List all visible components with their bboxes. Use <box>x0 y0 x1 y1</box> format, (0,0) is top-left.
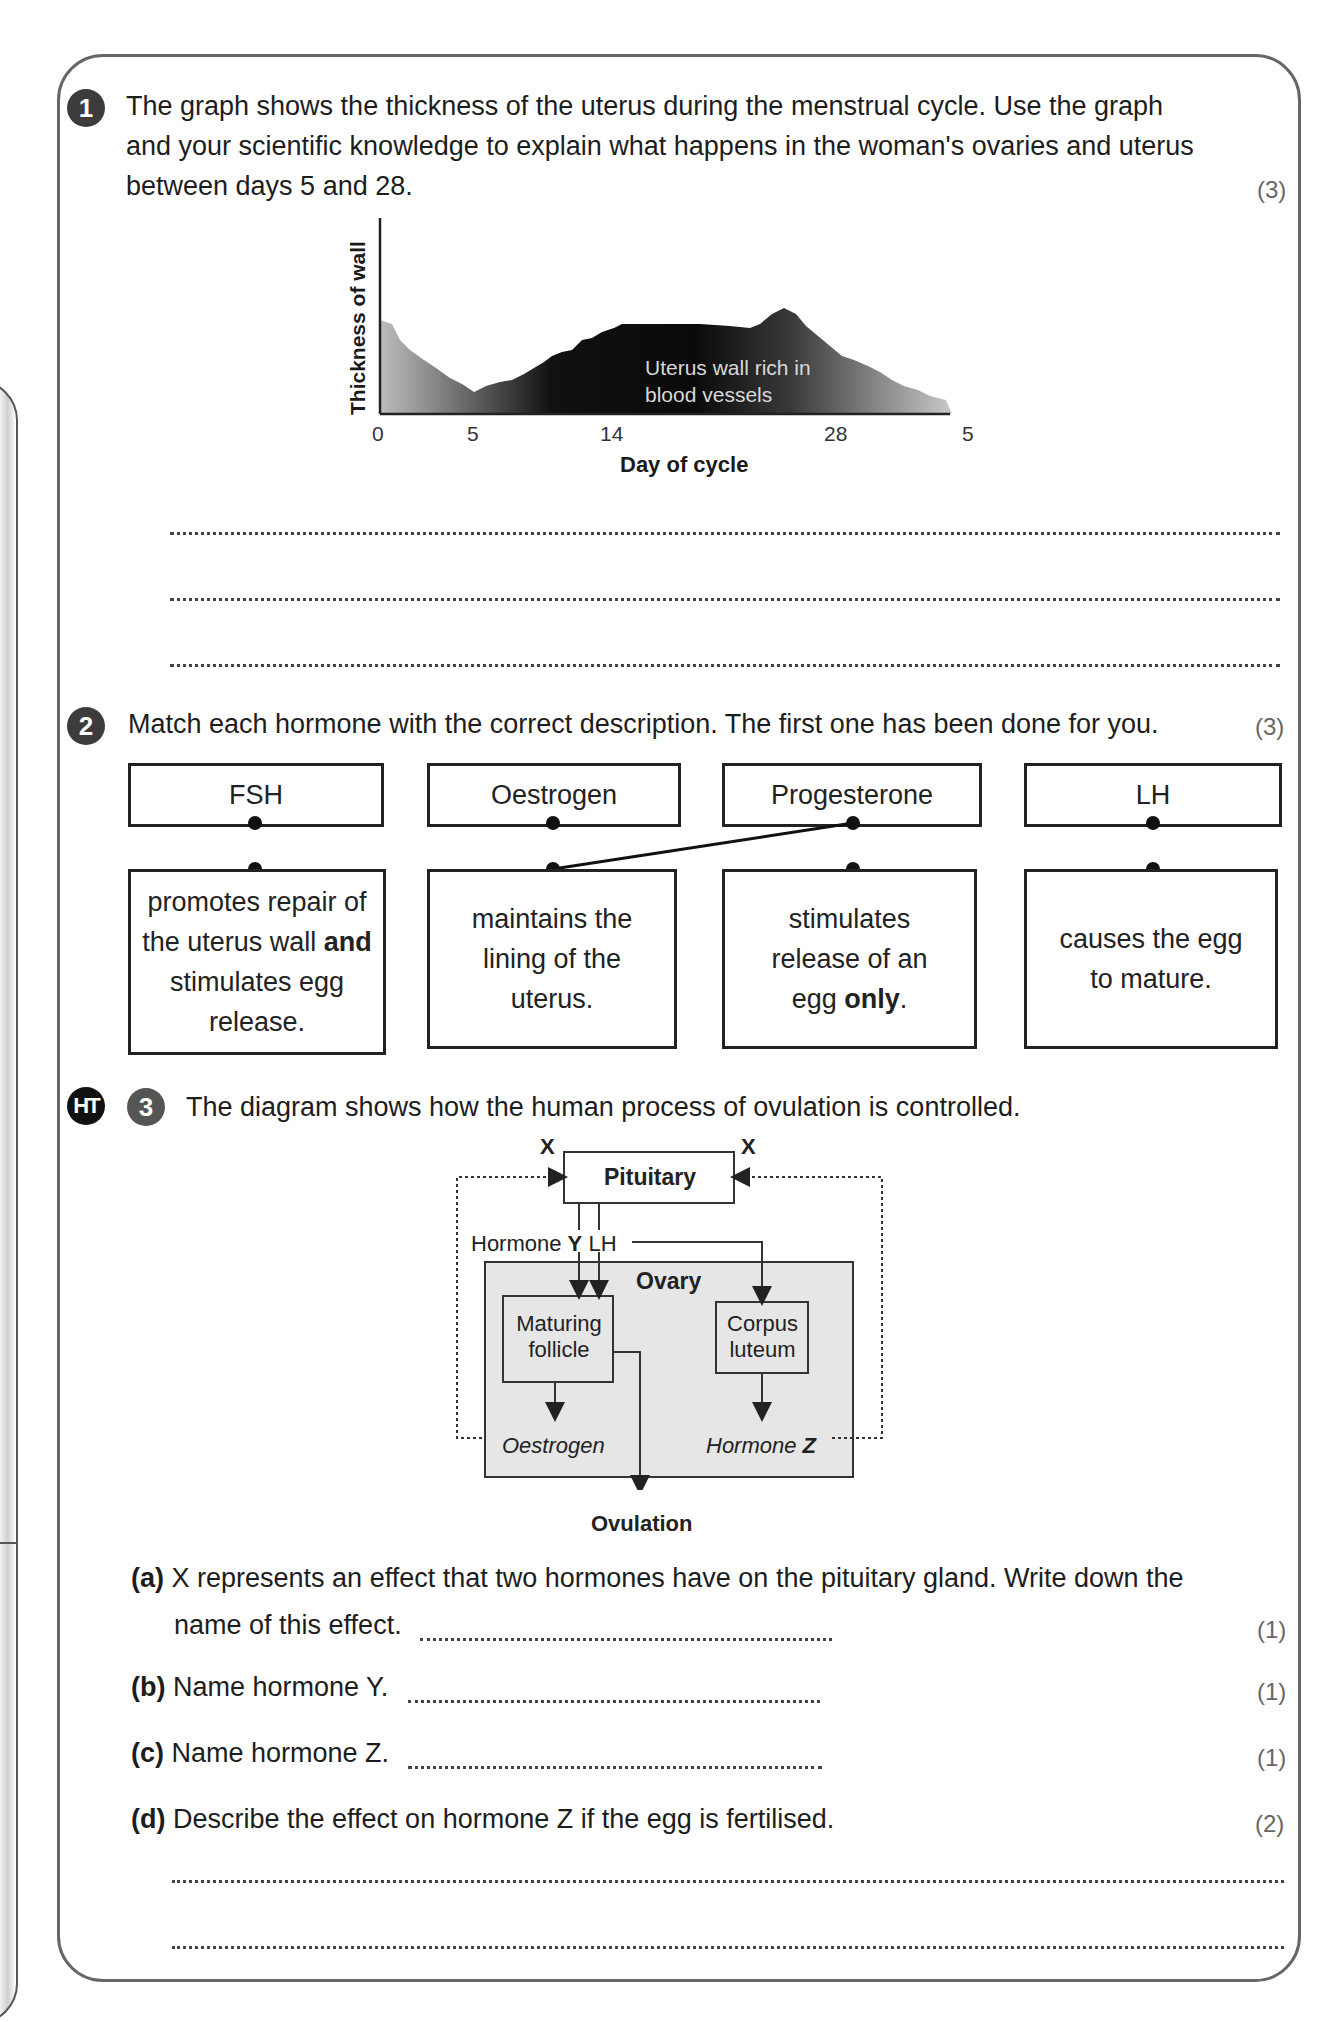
question-3-text: The diagram shows how the human process … <box>186 1087 1020 1127</box>
subquestion-d-marks: (2) <box>1255 1810 1284 1838</box>
subquestion-c-marks: (1) <box>1257 1744 1286 1772</box>
subquestion-a: (a) X represents an effect that two horm… <box>131 1555 1184 1601</box>
pituitary-label: Pituitary <box>604 1164 696 1191</box>
subquestion-a-marks: (1) <box>1257 1616 1286 1644</box>
subquestion-b-marks: (1) <box>1257 1678 1286 1706</box>
ovary-label: Ovary <box>636 1268 701 1295</box>
ovulation-label: Ovulation <box>591 1511 692 1537</box>
answer-line-d[interactable] <box>172 1946 1284 1949</box>
subquestion-d: (d) Describe the effect on hormone Z if … <box>131 1796 834 1842</box>
answer-line-c[interactable] <box>408 1766 822 1769</box>
description-box-1[interactable]: promotes repair of the uterus wall and s… <box>128 869 386 1055</box>
subquestion-c: (c) Name hormone Z. <box>131 1730 389 1776</box>
corpus-luteum-label: Corpusluteum <box>720 1311 805 1363</box>
oestrogen-label: Oestrogen <box>502 1433 605 1459</box>
hormone-y-label: Hormone Y LH <box>471 1231 617 1257</box>
question-3-badge: 3 <box>127 1088 165 1126</box>
page-edge-divider <box>0 1542 16 1544</box>
subquestion-a-line2: name of this effect. <box>174 1602 402 1648</box>
answer-line-a[interactable] <box>420 1638 832 1641</box>
description-box-3[interactable]: stimulates release of an egg only. <box>722 869 977 1049</box>
example-match-line <box>0 0 1338 1000</box>
description-box-4[interactable]: causes the egg to mature. <box>1024 869 1278 1049</box>
description-box-2[interactable]: maintains the lining of the uterus. <box>427 869 677 1049</box>
x-label-left: X <box>540 1134 555 1160</box>
subquestion-b: (b) Name hormone Y. <box>131 1664 388 1710</box>
answer-line-d[interactable] <box>172 1880 1284 1883</box>
answer-line-b[interactable] <box>408 1700 820 1703</box>
follicle-label: Maturingfollicle <box>514 1311 604 1363</box>
hormone-z-label: Hormone Z <box>706 1433 816 1459</box>
x-label-right: X <box>741 1134 756 1160</box>
higher-tier-badge: HT <box>67 1087 105 1125</box>
